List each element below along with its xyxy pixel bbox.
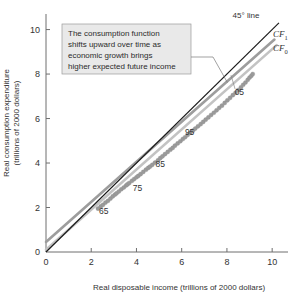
year-label-05: 05 xyxy=(235,87,245,97)
y-axis-title-line1: Real consumption expenditure xyxy=(2,68,11,177)
callout-line-1: The consumption function xyxy=(68,29,160,38)
cf0-line xyxy=(46,45,277,250)
y-tick-label: 10 xyxy=(30,25,40,35)
cf1-label: CF1 xyxy=(273,29,288,41)
y-axis-ticks: 0246810 xyxy=(30,25,50,257)
callout-line-3: economic growth brings xyxy=(68,51,152,60)
y-tick-label: 2 xyxy=(35,203,40,213)
x-tick-label: 2 xyxy=(89,257,94,267)
forty-five-line-label: 45° line xyxy=(233,11,260,20)
year-label-95: 95 xyxy=(185,127,195,137)
year-label-75: 75 xyxy=(133,183,143,193)
y-axis-title-line2: (trillions of 2000 dollars) xyxy=(12,80,21,165)
x-tick-label: 4 xyxy=(134,257,139,267)
x-axis-title: Real disposable income (trillions of 200… xyxy=(93,283,265,292)
data-points xyxy=(96,72,255,211)
year-label-85: 85 xyxy=(155,159,165,169)
x-axis-ticks: 0246810 xyxy=(43,248,277,267)
y-tick-label: 4 xyxy=(35,158,40,168)
callout-line-4: higher expected future income xyxy=(68,62,176,71)
y-tick-label: 8 xyxy=(35,69,40,79)
chart-canvas: 02468100246810Real disposable income (tr… xyxy=(0,0,300,295)
consumption-function-chart: 02468100246810Real disposable income (tr… xyxy=(0,0,300,295)
y-tick-label: 6 xyxy=(35,114,40,124)
y-axis-title: Real consumption expenditure(trillions o… xyxy=(2,68,21,177)
y-tick-label: 0 xyxy=(35,247,40,257)
x-tick-label: 0 xyxy=(43,257,48,267)
cf0-label: CF0 xyxy=(273,43,288,55)
data-point xyxy=(251,72,255,76)
x-tick-label: 6 xyxy=(179,257,184,267)
callout-line-2: shifts upward over time as xyxy=(68,40,161,49)
year-label-65: 65 xyxy=(99,206,109,216)
callout-annotation: The consumption functionshifts upward ov… xyxy=(62,24,227,83)
x-tick-label: 8 xyxy=(224,257,229,267)
x-tick-label: 10 xyxy=(267,257,277,267)
year-labels: 6575859505 xyxy=(99,75,244,216)
